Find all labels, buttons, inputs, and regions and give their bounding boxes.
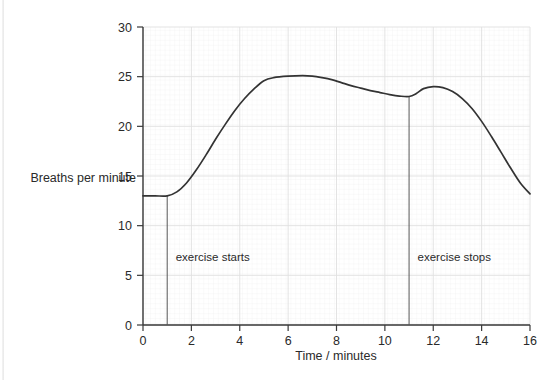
y-tick-label: 10	[118, 219, 132, 233]
x-axis-title: Time / minutes	[295, 349, 377, 363]
y-axis-ticks	[137, 27, 143, 325]
x-tick-label: 12	[426, 334, 440, 348]
x-axis-ticks	[143, 325, 530, 331]
breathing-rate-line-chart: 051015202530 0246810121416 Time / minute…	[0, 0, 559, 380]
y-axis-title: Breaths per minute	[30, 171, 136, 185]
annotation-label-exercise-starts: exercise starts	[176, 251, 250, 263]
x-axis-tick-labels: 0246810121416	[140, 334, 537, 348]
y-tick-label: 0	[125, 319, 132, 333]
y-tick-label: 25	[118, 70, 132, 84]
x-tick-label: 0	[140, 334, 147, 348]
x-tick-label: 2	[188, 334, 195, 348]
y-tick-label: 5	[125, 269, 132, 283]
x-tick-label: 14	[475, 334, 489, 348]
x-tick-label: 4	[236, 334, 243, 348]
x-tick-label: 8	[333, 334, 340, 348]
y-tick-label: 30	[118, 21, 132, 35]
chart-page: 051015202530 0246810121416 Time / minute…	[0, 0, 559, 380]
annotation-label-exercise-stops: exercise stops	[418, 251, 492, 263]
x-tick-label: 16	[523, 334, 537, 348]
x-tick-label: 6	[285, 334, 292, 348]
y-tick-label: 20	[118, 120, 132, 134]
x-tick-label: 10	[378, 334, 392, 348]
